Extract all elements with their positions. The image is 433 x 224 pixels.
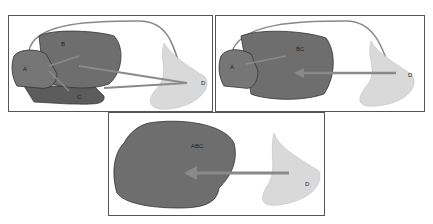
panel-2: A BC D — [215, 15, 425, 112]
label-bc: BC — [296, 46, 304, 52]
label-d: D — [408, 72, 412, 78]
panel-3: ABC D — [108, 112, 325, 216]
panel-1-diagram — [9, 16, 214, 113]
panel-3-diagram — [109, 113, 326, 217]
panel-1: A B C D — [8, 15, 213, 112]
label-b: B — [61, 41, 65, 47]
panel-2-diagram — [216, 16, 426, 113]
label-d: D — [201, 80, 205, 86]
label-abc: ABC — [191, 143, 203, 149]
label-d: D — [305, 181, 309, 187]
label-a: A — [23, 66, 27, 72]
label-a: A — [230, 64, 234, 70]
label-c: C — [77, 94, 81, 100]
